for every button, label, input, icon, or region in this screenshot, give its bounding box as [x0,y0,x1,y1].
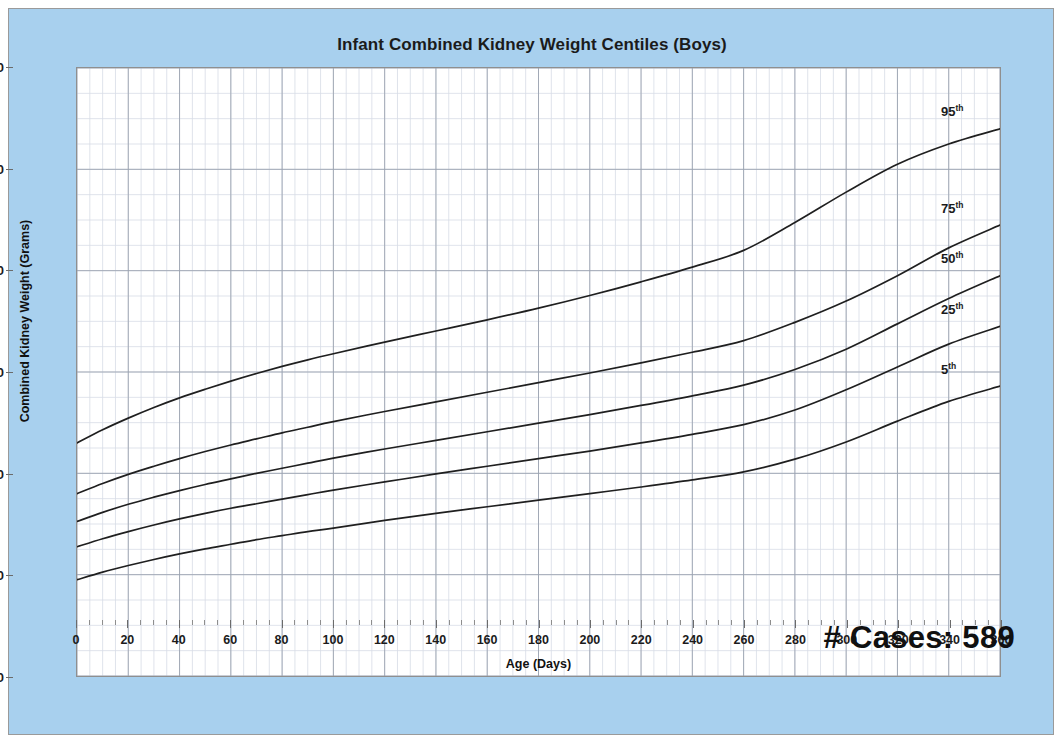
x-axis-tick-mark-minor [500,620,501,625]
x-axis-tick-mark [590,620,591,628]
y-axis-tick-mark [6,474,13,475]
x-axis-tick-mark [436,620,437,628]
x-axis-tick-mark [539,620,540,628]
chart-panel: Infant Combined Kidney Weight Centiles (… [8,8,1054,735]
x-axis-tick-mark [641,620,642,628]
x-axis-tick-mark-minor [153,620,154,625]
plot-area [76,67,1001,677]
x-axis-title: Age (Days) [76,657,1001,671]
x-axis-tick-mark-minor [577,620,578,625]
y-axis-tick-mark [6,677,13,678]
x-axis-tick-mark [693,620,694,628]
x-axis-tick-mark-minor [474,620,475,625]
y-axis-title: Combined Kidney Weight (Grams) [18,86,32,556]
chart-title: Infant Combined Kidney Weight Centiles (… [9,35,1055,55]
x-axis-tick-mark [333,620,334,628]
x-axis-tick-mark-minor [359,620,360,625]
x-axis-tick-mark-minor [346,620,347,625]
x-axis-tick-mark-minor [89,620,90,625]
y-axis-tick-mark [6,67,13,68]
y-axis-tick-label: 40 [0,466,4,481]
x-axis-tick-mark-minor [783,620,784,625]
y-axis-tick-label: 80 [0,263,4,278]
y-axis-tick-label: 0 [0,670,4,685]
x-axis-tick-mark-minor [140,620,141,625]
chart-page: Infant Combined Kidney Weight Centiles (… [0,0,1064,743]
x-axis-tick-mark-minor [628,620,629,625]
x-axis-tick-mark-minor [115,620,116,625]
x-axis-tick-mark [179,620,180,628]
x-axis-tick-mark-minor [410,620,411,625]
y-axis-tick-label: 20 [0,568,4,583]
x-axis-tick-mark-minor [513,620,514,625]
x-axis-tick-mark-minor [770,620,771,625]
x-axis-tick-mark-minor [166,620,167,625]
x-axis-tick-mark [744,620,745,628]
centile-label-5th: 5th [941,361,956,377]
y-axis-tick-label: 60 [0,365,4,380]
x-axis-tick-mark [127,620,128,628]
x-axis-tick-mark-minor [192,620,193,625]
x-axis-tick-mark-minor [217,620,218,625]
y-axis-tick-mark [6,169,13,170]
x-axis-tick-mark [282,620,283,628]
x-axis-tick-mark-minor [204,620,205,625]
x-axis-tick-mark [384,620,385,628]
grid-major [77,68,1000,676]
x-axis-tick-mark-minor [731,620,732,625]
x-axis-tick-mark-minor [423,620,424,625]
x-axis-tick-mark [795,620,796,628]
y-axis-tick-mark [6,270,13,271]
x-axis-tick-mark-minor [757,620,758,625]
x-axis-tick-mark-minor [718,620,719,625]
x-axis-tick-mark-minor [808,620,809,625]
centile-label-75th: 75th [941,199,964,215]
centile-label-50th: 50th [941,250,964,266]
x-axis-tick-mark-minor [680,620,681,625]
centile-label-25th: 25th [941,301,964,317]
x-axis-tick-mark [230,620,231,628]
x-axis-tick-mark-minor [269,620,270,625]
x-axis-tick-mark-minor [603,620,604,625]
x-axis-tick-mark-minor [320,620,321,625]
x-axis-tick-mark [487,620,488,628]
x-axis-tick-mark-minor [256,620,257,625]
y-axis-tick-label: 120 [0,60,4,75]
x-axis-tick-mark-minor [706,620,707,625]
x-axis-tick-mark-minor [371,620,372,625]
x-axis-tick-mark-minor [564,620,565,625]
x-axis-tick-mark-minor [526,620,527,625]
x-axis-tick-mark-minor [307,620,308,625]
x-axis-tick-mark-minor [449,620,450,625]
x-axis-tick-mark-minor [654,620,655,625]
x-axis-tick-mark-minor [461,620,462,625]
x-axis-tick-mark-minor [294,620,295,625]
x-axis-tick-mark-minor [616,620,617,625]
centile-label-95th: 95th [941,103,964,119]
x-axis-tick-mark-minor [397,620,398,625]
x-axis-tick-mark-minor [243,620,244,625]
x-axis-tick-mark-minor [102,620,103,625]
plot-svg [77,68,1000,676]
cases-count-annotation: # Cases: 589 [824,620,1015,656]
y-axis-tick-mark [6,372,13,373]
y-axis-tick-mark [6,575,13,576]
y-axis-tick-label: 100 [0,161,4,176]
x-axis-tick-mark-minor [821,620,822,625]
x-axis-tick-mark-minor [667,620,668,625]
x-axis-tick-mark-minor [551,620,552,625]
x-axis-tick-mark [76,620,77,628]
